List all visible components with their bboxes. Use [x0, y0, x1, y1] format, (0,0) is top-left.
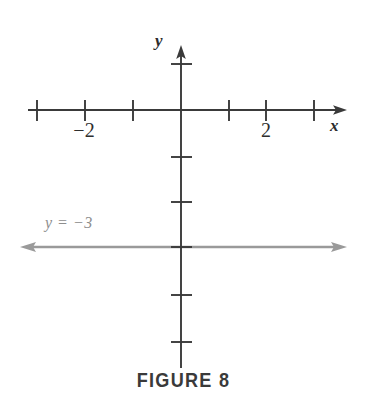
y-axis-label: y: [155, 32, 163, 49]
coordinate-plane-graphic: [0, 0, 367, 407]
x-tick-label-positive-2: 2: [242, 120, 290, 140]
x-tick-label-negative-2: −2: [60, 120, 108, 140]
y-axis: [171, 45, 192, 368]
figure-caption: FIGURE 8: [26, 369, 342, 390]
x-axis-label: x: [330, 117, 339, 134]
figure-container: y x −2 2 y = −3 FIGURE 8: [0, 0, 367, 407]
line-equation-label: y = −3: [45, 215, 93, 231]
x-axis: [28, 100, 347, 121]
